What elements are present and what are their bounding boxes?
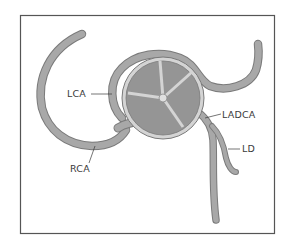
aortic-valve (122, 57, 204, 139)
label-rca: RCA (70, 164, 90, 174)
label-ld: LD (242, 144, 255, 154)
coronary-valve-illustration (0, 0, 289, 245)
label-lca: LCA (67, 89, 86, 99)
diagram-canvas: LCA RCA LADCA LD (0, 0, 289, 245)
label-ladca: LADCA (222, 110, 255, 120)
